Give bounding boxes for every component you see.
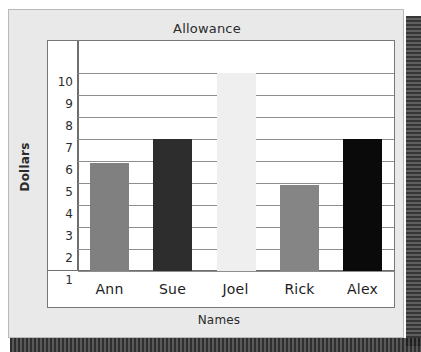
chart-panel: Allowance Dollars 10987654321 AnnSueJoel… [8, 9, 404, 338]
x-axis-label: Names [49, 313, 389, 327]
plot-frame: 10987654321 AnnSueJoelRickAlex [47, 40, 395, 308]
y-tick-label-5: 5 [48, 185, 73, 199]
y-tick-label-3: 3 [48, 229, 73, 243]
bar-ann [90, 163, 129, 271]
y-tick-label-7: 7 [48, 141, 73, 155]
plot-area [78, 41, 394, 271]
page-shadow-bottom [10, 338, 421, 352]
y-axis-label: Dollars [18, 137, 32, 197]
y-tick-label-8: 8 [48, 119, 73, 133]
bar-sue [153, 139, 192, 271]
bar-joel [217, 73, 256, 271]
bar-rick [280, 185, 319, 271]
y-tick-label-2: 2 [48, 251, 73, 265]
x-tick-label-rick: Rick [268, 271, 331, 307]
y-tick-label-9: 9 [48, 97, 73, 111]
y-tick-label-10: 10 [48, 75, 73, 89]
chart-page: Allowance Dollars 10987654321 AnnSueJoel… [0, 0, 421, 352]
x-tick-label-ann: Ann [78, 271, 141, 307]
x-tick-label-alex: Alex [331, 271, 394, 307]
x-tick-label-joel: Joel [204, 271, 267, 307]
x-tick-label-sue: Sue [141, 271, 204, 307]
x-axis-tick-labels: AnnSueJoelRickAlex [78, 271, 394, 307]
page-shadow-right [406, 16, 421, 346]
bar-alex [343, 139, 382, 271]
chart-title: Allowance [9, 21, 405, 36]
y-tick-label-1: 1 [48, 273, 73, 287]
y-tick-label-4: 4 [48, 207, 73, 221]
y-tick-label-6: 6 [48, 163, 73, 177]
